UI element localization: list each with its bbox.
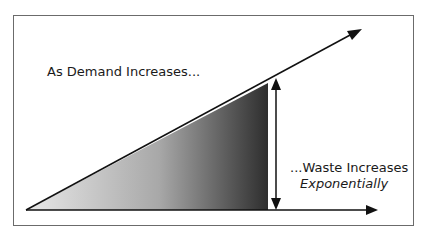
arrowhead-icon bbox=[347, 29, 362, 40]
arrowhead-icon bbox=[366, 205, 378, 215]
waste-vertical-double-arrow bbox=[271, 78, 281, 210]
arrowhead-up-icon bbox=[271, 78, 281, 90]
waste-label-line2: Exponentially bbox=[290, 176, 408, 192]
arrowhead-down-icon bbox=[271, 198, 281, 210]
waste-label-line1: ...Waste Increases bbox=[290, 160, 408, 175]
waste-label: ...Waste Increases Exponentially bbox=[290, 160, 408, 192]
waste-diagram bbox=[0, 0, 427, 241]
demand-label: As Demand Increases... bbox=[47, 64, 200, 79]
